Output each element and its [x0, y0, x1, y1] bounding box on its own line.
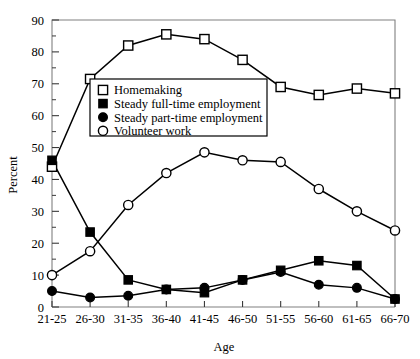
y-tick-label: 40 — [32, 173, 45, 187]
legend-marker-open-circle — [98, 126, 107, 135]
data-point — [162, 30, 171, 39]
data-point — [200, 283, 209, 292]
x-axis-title: Age — [214, 340, 235, 354]
data-point — [314, 90, 323, 99]
legend-marker-filled-square — [99, 99, 107, 107]
x-tick-label: 21-25 — [37, 312, 66, 326]
x-axis-ticks — [52, 301, 395, 307]
data-point — [314, 280, 323, 289]
data-point — [86, 228, 94, 236]
data-point — [276, 157, 285, 166]
legend-item-label: Homemaking — [114, 83, 183, 97]
data-point — [314, 184, 323, 193]
data-point — [238, 275, 247, 284]
data-point — [238, 156, 247, 165]
y-tick-label: 70 — [32, 77, 45, 91]
data-point — [200, 148, 209, 157]
data-point — [86, 247, 95, 256]
x-tick-label: 36-40 — [152, 312, 181, 326]
data-point — [124, 276, 132, 284]
data-point — [390, 89, 399, 98]
data-point — [276, 268, 285, 277]
legend-item-3[interactable]: Steady part-time employment — [99, 111, 263, 125]
series-3-markers — [48, 268, 400, 304]
data-point — [315, 257, 323, 265]
data-point — [200, 35, 209, 44]
series-3 — [52, 272, 395, 299]
data-point — [124, 200, 133, 209]
data-point — [86, 293, 95, 302]
chart-legend: HomemakingSteady full-time employmentSte… — [90, 79, 267, 138]
y-tick-label: 90 — [32, 14, 45, 28]
y-axis-tick-labels: 0102030405060708090 — [32, 14, 45, 315]
data-point — [352, 84, 361, 93]
x-tick-label: 31-35 — [114, 312, 143, 326]
series-line — [52, 272, 395, 299]
data-point — [124, 291, 133, 300]
data-point — [352, 283, 361, 292]
data-point — [352, 207, 361, 216]
data-point — [47, 271, 56, 280]
line-chart: 0102030405060708090 21-2526-3031-3536-40… — [0, 0, 420, 359]
x-tick-label: 61-65 — [342, 312, 371, 326]
x-axis-tick-labels: 21-2526-3031-3536-4041-4546-5051-5556-60… — [37, 312, 409, 326]
series-4 — [52, 152, 395, 275]
data-point — [124, 41, 133, 50]
x-tick-label: 51-55 — [266, 312, 295, 326]
x-tick-label: 41-45 — [190, 312, 219, 326]
x-tick-label: 56-60 — [304, 312, 333, 326]
y-tick-label: 20 — [32, 237, 45, 251]
data-point — [353, 261, 361, 269]
y-tick-label: 10 — [32, 269, 45, 283]
data-point — [390, 226, 399, 235]
x-tick-label: 26-30 — [76, 312, 105, 326]
data-point — [276, 82, 285, 91]
y-tick-label: 80 — [32, 45, 45, 59]
series-line — [52, 160, 395, 299]
x-tick-label: 46-50 — [228, 312, 257, 326]
y-tick-label: 50 — [32, 141, 45, 155]
legend-marker-filled-circle — [99, 113, 108, 122]
legend-marker-open-square — [98, 85, 107, 94]
data-point — [391, 295, 400, 304]
y-axis-title: Percent — [6, 156, 20, 194]
legend-item-2[interactable]: Steady full-time employment — [99, 97, 261, 111]
y-tick-label: 30 — [32, 205, 45, 219]
x-tick-label: 66-70 — [380, 312, 409, 326]
legend-item-label: Volunteer work — [114, 124, 192, 138]
series-2-markers — [48, 156, 399, 303]
legend-item-label: Steady full-time employment — [114, 97, 261, 111]
data-point — [48, 287, 57, 296]
series-4-markers — [47, 148, 399, 280]
y-tick-label: 60 — [32, 109, 45, 123]
data-point — [162, 285, 171, 294]
series-layer — [47, 30, 399, 304]
data-point — [238, 55, 247, 64]
data-point — [162, 168, 171, 177]
series-2 — [52, 160, 395, 299]
legend-item-label: Steady part-time employment — [114, 111, 263, 125]
data-point — [48, 156, 56, 164]
chart-container: 0102030405060708090 21-2526-3031-3536-40… — [0, 0, 420, 359]
series-line — [52, 152, 395, 275]
